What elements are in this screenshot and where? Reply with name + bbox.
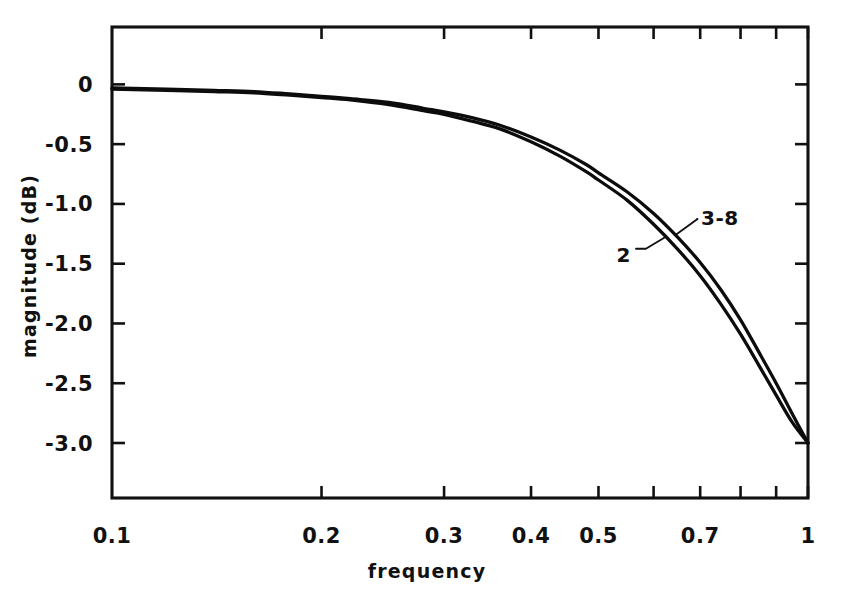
- x-tick-label: 1: [800, 524, 815, 548]
- curve-label-2: 2: [617, 243, 631, 267]
- x-axis-title: frequency: [368, 560, 487, 582]
- y-tick-label: -3.0: [45, 432, 93, 456]
- x-tick-label: 0.2: [302, 524, 341, 548]
- x-axis-ticks: [322, 27, 808, 498]
- chart-figure: 0-0.5-1.0-1.5-2.0-2.5-3.0 0.10.20.30.40.…: [0, 0, 845, 615]
- plot-box-border: [112, 27, 808, 498]
- y-tick-label: -1.0: [45, 192, 93, 216]
- x-tick-label: 0.5: [579, 524, 618, 548]
- x-tick-label: 0.1: [93, 524, 132, 548]
- y-axis-title: magnitude (dB): [18, 174, 40, 358]
- leader-line-series-2: [636, 237, 666, 249]
- y-tick-label: 0: [78, 73, 93, 97]
- x-tick-label: 0.3: [425, 524, 464, 548]
- y-tick-label: -2.0: [45, 312, 93, 336]
- data-curves: [112, 88, 808, 443]
- x-axis-tick-labels: 0.10.20.30.40.50.71: [93, 524, 816, 548]
- y-axis-ticks: [112, 84, 808, 443]
- magnitude-response-plot: 0-0.5-1.0-1.5-2.0-2.5-3.0 0.10.20.30.40.…: [0, 0, 845, 615]
- y-tick-label: -0.5: [45, 133, 93, 157]
- curve-label-3-8: 3-8: [701, 206, 739, 230]
- y-axis-tick-labels: 0-0.5-1.0-1.5-2.0-2.5-3.0: [45, 73, 93, 456]
- y-tick-label: -2.5: [45, 372, 93, 396]
- x-tick-label: 0.4: [512, 524, 551, 548]
- plot-frame: [112, 27, 808, 498]
- x-tick-label: 0.7: [681, 524, 720, 548]
- y-tick-label: -1.5: [45, 252, 93, 276]
- leader-line-series-3-8: [676, 219, 698, 235]
- data-curve-3-8: [112, 88, 808, 443]
- annotation-leaders: [636, 219, 698, 249]
